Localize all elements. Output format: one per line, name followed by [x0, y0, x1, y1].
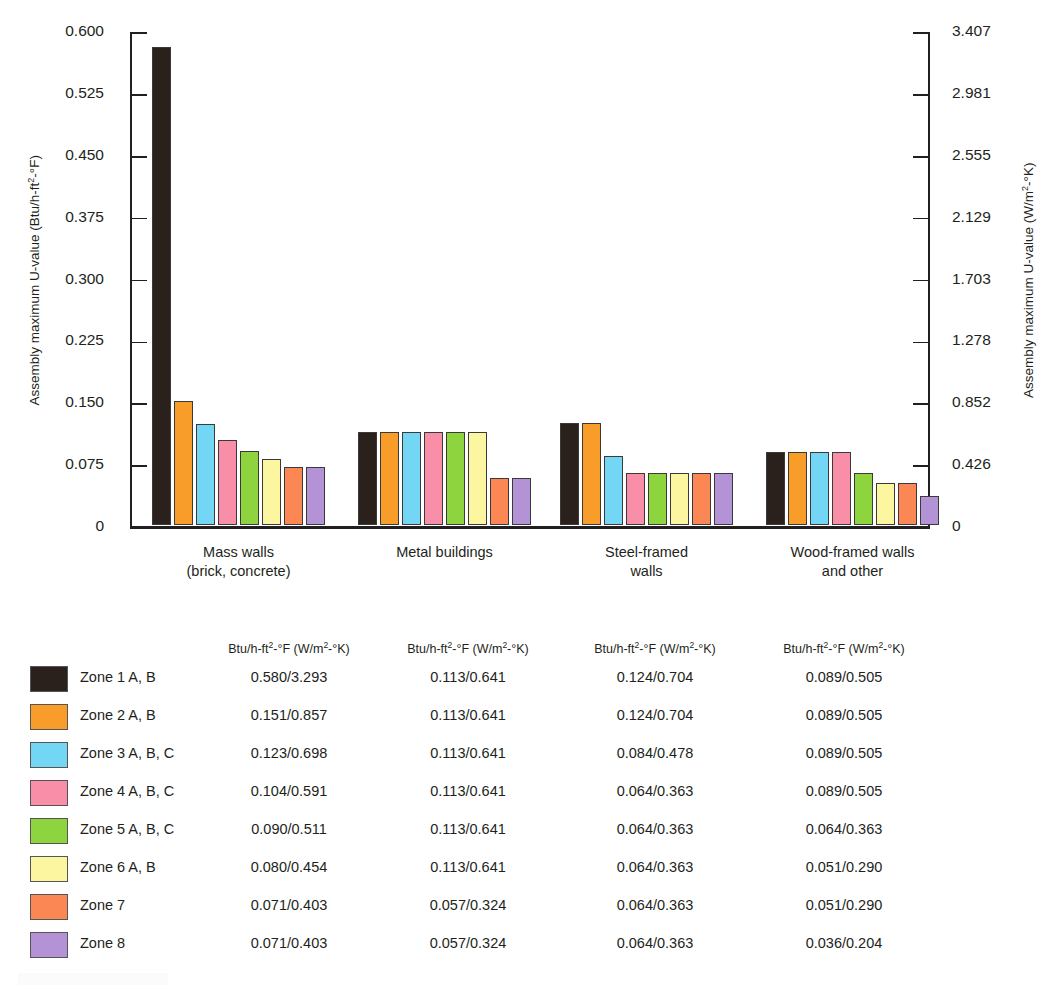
table-row: Zone 5 A, B, C0.090/0.5110.113/0.6410.06… — [0, 818, 1062, 856]
table-row: Zone 3 A, B, C0.123/0.6980.113/0.6410.08… — [0, 742, 1062, 780]
table-row: Zone 1 A, B0.580/3.2930.113/0.6410.124/0… — [0, 666, 1062, 704]
bar — [424, 432, 443, 525]
table-cell-value: 0.113/0.641 — [363, 707, 573, 723]
y-axis-right-tick — [913, 32, 930, 34]
y-axis-right-tick-label: 1.703 — [952, 270, 991, 288]
bar — [582, 423, 601, 525]
y-axis-right-tick-label: 2.981 — [952, 84, 991, 102]
y-axis-left-tick-label: 0.525 — [0, 84, 104, 102]
y-axis-right-tick-label: 1.278 — [952, 331, 991, 349]
chart-container: Assembly maximum U-value (Btu/h-ft2-°F) … — [0, 0, 1062, 620]
bar — [446, 432, 465, 525]
y-axis-left-tick-label: 0 — [0, 517, 104, 535]
table-cell-value: 0.051/0.290 — [739, 897, 949, 913]
legend-zone-label: Zone 6 A, B — [80, 859, 156, 875]
bar — [670, 473, 689, 526]
table-cell-value: 0.036/0.204 — [739, 935, 949, 951]
plot-area — [130, 33, 930, 528]
category-label-line: (brick, concrete) — [89, 562, 389, 581]
bar-group — [358, 432, 531, 525]
y-axis-left-tick-label: 0.225 — [0, 331, 104, 349]
y-axis-left-tick-label: 0.150 — [0, 393, 104, 411]
bar — [766, 452, 785, 525]
legend-zone-label: Zone 7 — [80, 897, 125, 913]
legend-color-swatch — [30, 932, 68, 958]
bar — [920, 496, 939, 526]
legend-color-swatch — [30, 742, 68, 768]
table-cell-value: 0.089/0.505 — [739, 745, 949, 761]
bar — [788, 452, 807, 525]
bar — [358, 432, 377, 525]
table-row: Zone 6 A, B0.080/0.4540.113/0.6410.064/0… — [0, 856, 1062, 894]
table-cell-value: 0.064/0.363 — [550, 935, 760, 951]
legend-zone-label: Zone 5 A, B, C — [80, 821, 174, 837]
bar-group — [766, 452, 939, 525]
bar — [196, 424, 215, 525]
table-cell-value: 0.124/0.704 — [550, 669, 760, 685]
table-cell-value: 0.113/0.641 — [363, 745, 573, 761]
y-axis-left-tick-label: 0.600 — [0, 22, 104, 40]
bar-group — [152, 47, 325, 526]
legend-zone-label: Zone 4 A, B, C — [80, 783, 174, 799]
y-axis-right-tick-label: 0.852 — [952, 393, 991, 411]
bar — [306, 467, 325, 526]
bar — [854, 473, 873, 526]
bar — [490, 478, 509, 525]
table-column-header: Btu/h-ft2-°F (W/m2-°K) — [550, 640, 760, 656]
bar — [832, 452, 851, 525]
bar — [152, 47, 171, 526]
category-label-line: and other — [703, 562, 1003, 581]
table-cell-value: 0.113/0.641 — [363, 669, 573, 685]
bar — [692, 473, 711, 526]
table-cell-value: 0.057/0.324 — [363, 897, 573, 913]
y-axis-left-tick — [130, 156, 147, 158]
y-axis-right-tick-label: 3.407 — [952, 22, 991, 40]
table-cell-value: 0.113/0.641 — [363, 859, 573, 875]
table-row: Zone 70.071/0.4030.057/0.3240.064/0.3630… — [0, 894, 1062, 932]
bar — [512, 478, 531, 525]
table-cell-value: 0.089/0.505 — [739, 707, 949, 723]
y-axis-left-tick — [130, 342, 147, 344]
y-axis-right-tick — [913, 403, 930, 405]
y-axis-right-title: Assembly maximum U-value (W/m2-°K) — [1020, 80, 1037, 480]
bar — [262, 459, 281, 525]
legend-zone-label: Zone 3 A, B, C — [80, 745, 174, 761]
y-axis-right-tick-label: 2.129 — [952, 208, 991, 226]
legend-color-swatch — [30, 780, 68, 806]
y-axis-right-tick-label: 0 — [952, 517, 961, 535]
y-axis-left-tick — [130, 403, 147, 405]
legend-color-swatch — [30, 856, 68, 882]
table-cell-value: 0.051/0.290 — [739, 859, 949, 875]
bar — [284, 467, 303, 526]
table-cell-value: 0.084/0.478 — [550, 745, 760, 761]
table-cell-value: 0.064/0.363 — [550, 897, 760, 913]
bar — [714, 473, 733, 526]
y-axis-right-tick-label: 2.555 — [952, 146, 991, 164]
table-row: Zone 4 A, B, C0.104/0.5910.113/0.6410.06… — [0, 780, 1062, 818]
legend-zone-label: Zone 1 A, B — [80, 669, 156, 685]
legend-color-swatch — [30, 704, 68, 730]
bar — [468, 432, 487, 525]
bar — [380, 432, 399, 525]
legend-table: Btu/h-ft2-°F (W/m2-°K)Btu/h-ft2-°F (W/m2… — [0, 640, 1062, 980]
table-cell-value: 0.113/0.641 — [363, 783, 573, 799]
y-axis-right-tick — [913, 218, 930, 220]
bar — [218, 440, 237, 526]
bar — [876, 483, 895, 525]
y-axis-left-tick — [130, 280, 147, 282]
table-cell-value: 0.089/0.505 — [739, 669, 949, 685]
y-axis-left-tick-label: 0.075 — [0, 455, 104, 473]
table-cell-value: 0.064/0.363 — [739, 821, 949, 837]
bar — [898, 483, 917, 525]
legend-color-swatch — [30, 666, 68, 692]
y-axis-left-tick-label: 0.375 — [0, 208, 104, 226]
bar — [174, 401, 193, 526]
bar — [648, 473, 667, 526]
bar — [604, 456, 623, 525]
table-cell-value: 0.113/0.641 — [363, 821, 573, 837]
legend-color-swatch — [30, 894, 68, 920]
table-cell-value: 0.124/0.704 — [550, 707, 760, 723]
y-axis-right-tick — [913, 280, 930, 282]
table-column-headers: Btu/h-ft2-°F (W/m2-°K)Btu/h-ft2-°F (W/m2… — [0, 640, 1062, 662]
bar — [402, 432, 421, 525]
